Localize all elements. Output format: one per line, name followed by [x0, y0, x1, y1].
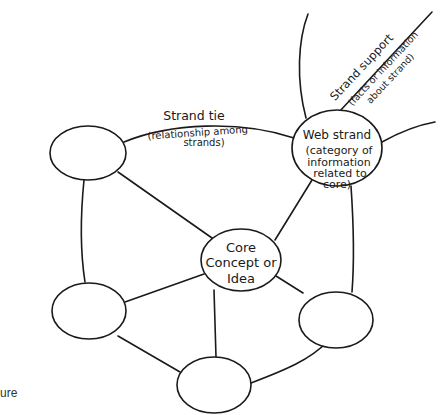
core-to-top-left-line [118, 172, 212, 238]
core-label-line-1: Core [226, 240, 256, 255]
core-to-bottom-left-line [125, 274, 204, 302]
bottom-to-right-line [251, 341, 328, 383]
core-to-bottom-line [214, 290, 216, 357]
strand-tie-title: Strand tie [163, 108, 225, 123]
web-strand-desc-4: core) [323, 178, 351, 191]
web-strand-title: Web strand [303, 128, 371, 142]
figure-caption-fragment: ure [0, 386, 17, 400]
strand-tie-subtitle-2: strands) [183, 137, 224, 148]
core-label-line-3: Idea [227, 271, 255, 286]
core-to-right-line [276, 276, 303, 293]
semantic-web-diagram: Core Concept or Idea Web strand (categor… [0, 0, 443, 415]
strand-support-line-vertical [299, 14, 308, 118]
node-right [299, 292, 373, 348]
diagram-svg: Core Concept or Idea Web strand (categor… [0, 0, 443, 415]
bottom-left-to-bottom-line [118, 336, 180, 372]
core-label-line-2: Concept or [205, 255, 277, 270]
core-to-web-strand-line [275, 180, 312, 240]
strand-support-line-right [382, 122, 435, 142]
node-bottom [177, 357, 251, 413]
node-top-left [50, 126, 126, 180]
node-bottom-left [52, 283, 126, 339]
web-strand-to-right-line [351, 186, 353, 292]
top-left-to-bottom-left-line [81, 180, 85, 282]
